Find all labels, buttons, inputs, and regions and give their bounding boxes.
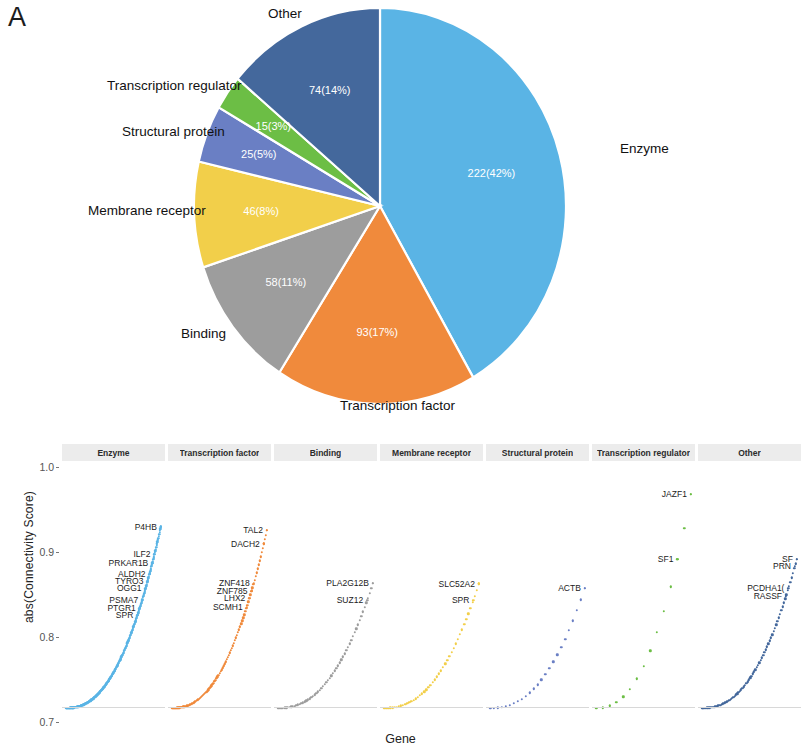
scatter-point	[469, 607, 471, 609]
panel-a-pie-chart: A 222(42%)93(17%)58(11%)46(8%)25(5%)15(3…	[0, 0, 801, 430]
scatter-point	[261, 551, 263, 553]
scatter-point	[683, 527, 685, 529]
gene-label-JAZF1: JAZF1	[662, 489, 691, 499]
pie-category-label-transcription-regulator: Transcription regulator	[107, 78, 242, 93]
scatter-point	[338, 662, 340, 664]
scatter-point	[427, 686, 429, 688]
pie-slice-value-membrane-receptor: 46(8%)	[243, 205, 278, 217]
gene-label-PRN: PRN	[773, 561, 795, 571]
pie-category-label-structural-protein: Structural protein	[122, 124, 225, 139]
scatter-point	[540, 678, 542, 680]
pie-slice-value-other: 74(14%)	[309, 84, 351, 96]
scatter-point	[663, 610, 665, 612]
scatter-point	[548, 667, 550, 669]
scatter-point	[332, 672, 334, 674]
scatter-point	[774, 627, 776, 629]
scatter-point	[342, 656, 344, 658]
scatter-point	[779, 613, 781, 615]
scatter-point	[790, 576, 792, 578]
facet-strip-structural-protein: Structural protein	[486, 444, 589, 461]
scatter-point	[327, 679, 329, 681]
pie-slice-value-transcription-regulator: 15(3%)	[256, 120, 291, 132]
scatter-point	[536, 683, 538, 685]
scatter-point	[387, 707, 389, 709]
facet-grid: EnzymeP4HBILF2PRKAR1BALDH2TYRO3OGG1PSMA7…	[62, 444, 801, 722]
scatter-point	[776, 620, 778, 622]
scatter-point	[767, 643, 769, 645]
scatter-point	[255, 571, 257, 573]
scatter-point	[473, 595, 475, 597]
scatter-point	[556, 654, 558, 656]
scatter-point	[576, 609, 578, 611]
scatter-point	[438, 673, 440, 675]
facet-strip-transcription-factor: Transcription factor	[168, 444, 271, 461]
scatter-point	[396, 706, 398, 708]
scatter-point	[425, 688, 427, 690]
scatter-point	[772, 630, 774, 632]
pie-chart: 222(42%)93(17%)58(11%)46(8%)25(5%)15(3%)…	[178, 4, 582, 408]
scatter-point	[76, 706, 78, 708]
scatter-point	[707, 707, 709, 709]
scatter-point	[243, 613, 245, 615]
x-axis-label: Gene	[0, 732, 801, 746]
scatter-point	[465, 618, 467, 620]
scatter-point	[330, 675, 332, 677]
facet-strip-transcription-regulator: Transcription regulator	[592, 444, 695, 461]
pie-category-label-transcription-factor: Transcription factor	[340, 398, 455, 413]
facet-transcription-regulator: Transcription regulatorJAZF1SF1	[592, 444, 695, 722]
scatter-point	[285, 706, 287, 708]
scatter-point	[176, 707, 178, 709]
y-axis-ticks: 1.00.90.80.7	[20, 450, 60, 722]
scatter-point	[350, 639, 352, 641]
scatter-point	[181, 706, 183, 708]
scatter-point	[258, 559, 260, 561]
scatter-point	[622, 696, 624, 698]
scatter-point	[505, 705, 507, 707]
scatter-point	[544, 673, 546, 675]
scatter-point	[347, 646, 349, 648]
facet-plot-area: SFPRNPCDHA1(RASSF	[698, 461, 801, 708]
scatter-point	[357, 623, 359, 625]
scatter-point	[775, 624, 777, 626]
scatter-point	[325, 681, 327, 683]
scatter-point	[552, 661, 554, 663]
scatter-point	[602, 706, 604, 708]
gene-label-DACH2: DACH2	[231, 539, 264, 549]
scatter-point	[564, 638, 566, 640]
scatter-point	[75, 706, 77, 708]
scatter-point	[513, 702, 515, 704]
scatter-point	[448, 655, 450, 657]
scatter-point	[282, 707, 284, 709]
scatter-point	[476, 589, 478, 591]
scatter-point	[489, 707, 491, 709]
scatter-point	[289, 706, 291, 708]
gene-label-PRKAR1B: PRKAR1B	[109, 558, 153, 568]
scatter-point	[521, 698, 523, 700]
facet-strip-label: Structural protein	[502, 448, 573, 458]
pie-category-label-membrane-receptor: Membrane receptor	[88, 203, 206, 218]
scatter-point	[709, 706, 711, 708]
scatter-point	[781, 605, 783, 607]
scatter-point	[241, 620, 243, 622]
gene-label-RASSF: RASSF	[754, 591, 786, 601]
scatter-point	[353, 631, 355, 633]
scatter-point	[254, 575, 256, 577]
scatter-point	[264, 538, 266, 540]
scatter-point	[501, 706, 503, 708]
gene-label-ACTB: ACTB	[558, 583, 585, 593]
y-tick-0.9: 0.9	[39, 546, 54, 558]
facet-plot-area: JAZF1SF1	[592, 461, 695, 708]
scatter-point	[358, 619, 360, 621]
scatter-point	[174, 707, 176, 709]
panel-a-letter: A	[8, 2, 26, 33]
scatter-point	[656, 631, 658, 633]
scatter-point	[783, 601, 785, 603]
scatter-point	[517, 700, 519, 702]
facet-other: OtherSFPRNPCDHA1(RASSF	[698, 444, 801, 722]
pie-svg: 222(42%)93(17%)58(11%)46(8%)25(5%)15(3%)…	[178, 4, 582, 408]
y-tick-1.0: 1.0	[39, 461, 54, 473]
scatter-point	[766, 646, 768, 648]
scatter-point	[792, 572, 794, 574]
scatter-point	[287, 706, 289, 708]
scatter-point	[335, 667, 337, 669]
